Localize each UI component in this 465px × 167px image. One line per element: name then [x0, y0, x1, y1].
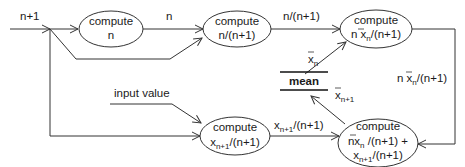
node-mean-store: mean [280, 72, 328, 90]
node-label: compute [215, 15, 259, 27]
edge-nxn [412, 29, 455, 144]
label-ratio: n/(n+1) [283, 10, 320, 22]
dataflow-diagram: compute n compute n/(n+1) compute n xn/(… [0, 0, 465, 167]
label-xbar-n: xn [308, 53, 318, 68]
edge-input-value [110, 104, 201, 123]
label-n: n [166, 10, 172, 22]
label-n-plus-1: n+1 [20, 10, 40, 22]
label-xbar-n1: xn+1 [335, 89, 355, 104]
label-nxn: n xn/(n+1) [397, 72, 447, 87]
node-label: compute [356, 120, 400, 132]
label-input-value: input value [114, 87, 170, 99]
node-compute-sum: compute nxn /(n+1) + xn+1/(n+1) [338, 119, 418, 167]
node-label: compute [354, 14, 398, 26]
node-label: n/(n+1) [219, 29, 256, 41]
label-xnext: xn+1/(n+1) [274, 119, 324, 134]
node-label: compute [89, 15, 133, 27]
node-compute-nxn: compute n xn/(n+1) [340, 10, 412, 48]
node-compute-xnext: compute xn+1/(n+1) [200, 117, 270, 155]
node-label: n [108, 29, 114, 41]
node-label: compute [213, 121, 257, 133]
mean-label: mean [289, 75, 319, 87]
node-compute-n: compute n [79, 11, 143, 47]
node-compute-ratio: compute n/(n+1) [203, 11, 271, 47]
